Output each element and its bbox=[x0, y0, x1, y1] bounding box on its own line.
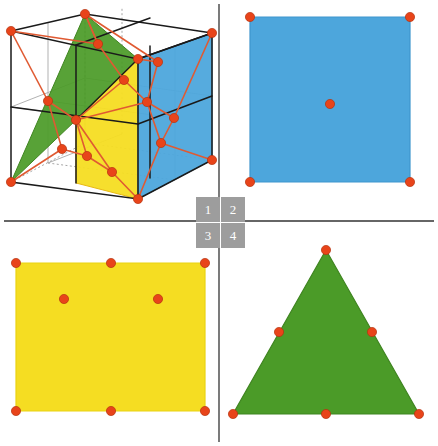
panel-2-blue-square bbox=[245, 12, 414, 186]
panel-1-cube bbox=[6, 7, 216, 204]
panel-3-yellow-rectangle bbox=[11, 258, 209, 415]
panel-label-4[interactable]: 4 bbox=[221, 223, 245, 248]
panel-label-3[interactable]: 3 bbox=[196, 223, 220, 248]
figure-canvas: 1 2 3 4 bbox=[0, 0, 438, 446]
panel-4-green-triangle bbox=[228, 245, 423, 418]
panel-label-2[interactable]: 2 bbox=[221, 197, 245, 222]
panel-label-grid: 1 2 3 4 bbox=[196, 197, 245, 248]
panel-label-1[interactable]: 1 bbox=[196, 197, 220, 222]
green-triangle-shape bbox=[233, 250, 419, 414]
yellow-rectangle-shape bbox=[16, 263, 205, 411]
